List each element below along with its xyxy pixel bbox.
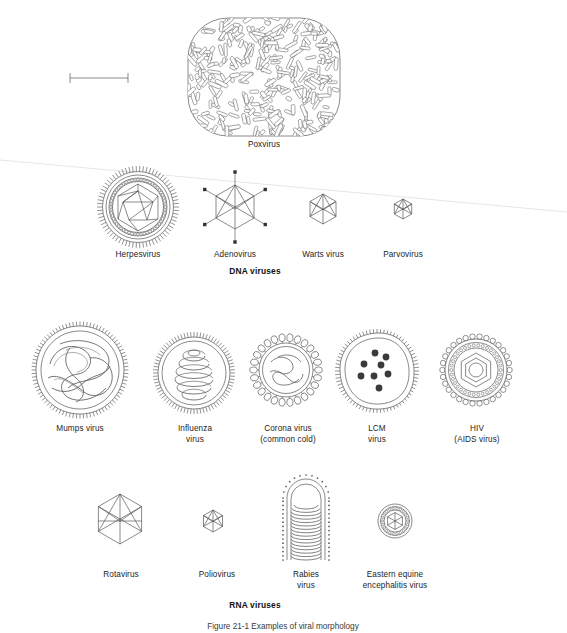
virus-rotavirus xyxy=(90,488,150,550)
virus-label-lcm: LCM virus xyxy=(337,424,417,445)
scale-bar xyxy=(68,70,130,86)
virus-poliovirus xyxy=(198,505,228,537)
virus-warts xyxy=(303,188,343,230)
virus-label-rabies: Rabies virus xyxy=(266,570,346,591)
virus-label-mumps: Mumps virus xyxy=(30,424,130,435)
virus-label-warts: Warts virus xyxy=(283,250,363,261)
virus-poxvirus xyxy=(184,14,344,140)
virus-label-parvovirus: Parvovirus xyxy=(363,250,443,261)
virus-label-corona: Corona virus (common cold) xyxy=(238,424,338,445)
virus-hiv xyxy=(437,328,515,412)
virus-mumps xyxy=(32,320,128,420)
virus-label-influenza: Influenza virus xyxy=(150,424,240,445)
group-heading-rna: RNA viruses xyxy=(185,600,325,610)
virus-herpesvirus xyxy=(92,166,184,248)
virus-label-poxvirus: Poxvirus xyxy=(204,140,324,151)
virus-label-poliovirus: Poliovirus xyxy=(174,570,260,581)
group-heading-dna: DNA viruses xyxy=(185,266,325,276)
virus-corona xyxy=(249,330,323,410)
virus-parvovirus xyxy=(389,194,417,224)
virus-label-eee: Eastern equine encephalitis virus xyxy=(345,570,445,591)
figure-canvas: Poxvirus Herpesvirus xyxy=(0,0,567,633)
virus-label-hiv: HIV (AIDS virus) xyxy=(431,424,523,445)
virus-adenovirus xyxy=(198,168,272,246)
figure-caption: Figure 21-1 Examples of viral morphology xyxy=(113,622,453,631)
virus-label-herpesvirus: Herpesvirus xyxy=(88,250,188,261)
virus-eee xyxy=(373,498,417,544)
virus-lcm xyxy=(337,326,417,416)
virus-label-rotavirus: Rotavirus xyxy=(78,570,164,581)
virus-label-adenovirus: Adenovirus xyxy=(190,250,280,261)
virus-influenza xyxy=(154,330,234,416)
virus-rabies xyxy=(277,470,335,562)
